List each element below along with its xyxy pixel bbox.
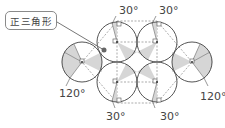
angle-label-bottom-right: 30° [160,111,180,122]
angle-label-top-right: 30° [159,5,179,16]
callout-equilateral-triangle: 正三角形 [5,11,57,30]
angle-label-left: 120° [59,88,86,99]
angle-label-bottom-left: 30° [106,111,126,122]
callout-leader [57,22,107,53]
angle-label-right: 120° [200,91,225,102]
angle-label-top-left: 30° [119,5,139,16]
